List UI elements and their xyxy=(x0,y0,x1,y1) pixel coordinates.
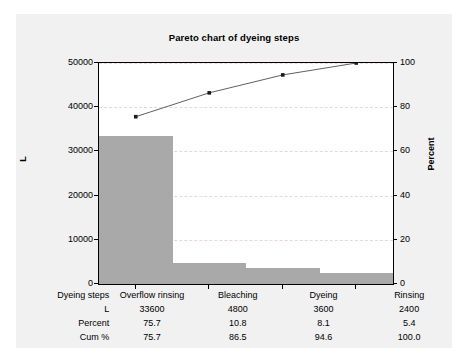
table-cell: 8.1 xyxy=(281,317,367,331)
table-cell: 10.8 xyxy=(195,317,281,331)
y-axis-right-tick-label: 20 xyxy=(400,234,410,244)
y-axis-right-tick xyxy=(393,283,397,284)
table-row-label: Percent xyxy=(16,317,109,331)
pareto-data-table: Dyeing stepsOverflow rinsingBleachingDye… xyxy=(16,289,452,345)
table-cell: 86.5 xyxy=(195,331,281,345)
cumulative-line-series xyxy=(99,63,393,284)
cumulative-line xyxy=(136,63,357,117)
table-cell: Dyeing xyxy=(281,289,367,303)
table-cell: Overflow rinsing xyxy=(109,289,195,303)
chart-title: Pareto chart of dyeing steps xyxy=(16,32,452,43)
y-axis-left-tick-label: 40000 xyxy=(46,101,98,111)
plot-area xyxy=(98,62,394,285)
y-axis-right-tick xyxy=(393,239,397,240)
y-axis-right-tick xyxy=(393,195,397,196)
y-axis-right-tick xyxy=(393,62,397,63)
pareto-chart-card: Pareto chart of dyeing steps 01000020000… xyxy=(16,14,452,348)
table-cell: 5.4 xyxy=(366,317,452,331)
cumulative-point-marker xyxy=(354,63,358,65)
table-cell: 94.6 xyxy=(281,331,367,345)
y-axis-right-tick-label: 100 xyxy=(400,57,415,67)
y-axis-right-tick xyxy=(393,150,397,151)
y-axis-left-tick-label: 20000 xyxy=(46,190,98,200)
table-cell: 4800 xyxy=(195,303,281,317)
y-axis-left-label: L xyxy=(18,156,28,162)
y-axis-left-tick-label: 50000 xyxy=(46,57,98,67)
table-cell: 3600 xyxy=(281,303,367,317)
cumulative-point-marker xyxy=(207,91,211,95)
cumulative-point-marker xyxy=(134,115,138,119)
table-row-label: L xyxy=(16,303,109,317)
y-axis-left-tick-label: 30000 xyxy=(46,145,98,155)
y-axis-left-tick-label: 10000 xyxy=(46,234,98,244)
plot-inner xyxy=(99,63,393,284)
table-row-label: Cum % xyxy=(16,331,109,345)
table-row: Cum %75.786.594.6100.0 xyxy=(16,331,452,345)
y-axis-right-tick-label: 80 xyxy=(400,101,410,111)
table-row: Dyeing stepsOverflow rinsingBleachingDye… xyxy=(16,289,452,303)
y-axis-right-label: Percent xyxy=(426,137,436,170)
cumulative-point-marker xyxy=(281,73,285,77)
table-cell: Bleaching xyxy=(195,289,281,303)
y-axis-right-tick-label: 40 xyxy=(400,190,410,200)
table-cell: 75.7 xyxy=(109,331,195,345)
y-axis-left-tick-label: 0 xyxy=(46,278,98,288)
table-row-label: Dyeing steps xyxy=(16,289,109,303)
table-row: L33600480036002400 xyxy=(16,303,452,317)
y-axis-right-tick xyxy=(393,106,397,107)
y-axis-left: 01000020000300004000050000 xyxy=(38,62,98,283)
y-axis-right: 020406080100 xyxy=(393,62,453,283)
table-cell: 100.0 xyxy=(366,331,452,345)
table-cell: Rinsing xyxy=(366,289,452,303)
y-axis-right-tick-label: 0 xyxy=(400,278,405,288)
table-cell: 75.7 xyxy=(109,317,195,331)
table-cell: 2400 xyxy=(366,303,452,317)
y-axis-right-tick-label: 60 xyxy=(400,145,410,155)
table-row: Percent75.710.88.15.4 xyxy=(16,317,452,331)
table-cell: 33600 xyxy=(109,303,195,317)
